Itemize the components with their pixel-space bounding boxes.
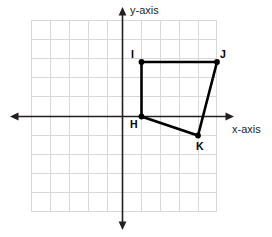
- vertex-point-k: [195, 133, 201, 139]
- vertex-label-j: J: [220, 48, 226, 60]
- y-axis-label: y-axis: [130, 4, 159, 16]
- vertex-label-k: K: [196, 140, 204, 152]
- vertex-point-h: [139, 114, 145, 120]
- vertex-label-i: I: [131, 48, 134, 60]
- x-axis-label: x-axis: [232, 123, 261, 135]
- vertex-point-i: [139, 59, 145, 65]
- vertex-label-h: H: [130, 118, 138, 130]
- coordinate-grid-svg: y-axis x-axis H I J K: [0, 0, 272, 237]
